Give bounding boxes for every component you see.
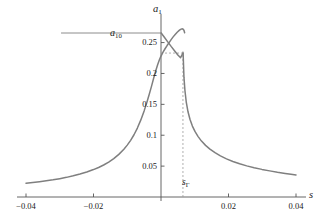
y-tick-label: 0.05 [129,162,157,171]
x-tick-label: −0.04 [13,202,39,211]
s-gamma-marker-label: sΓ [182,178,189,188]
a10-reference-label: a10 [110,28,122,40]
y-tick-label: 0.1 [129,131,157,140]
x-tick-label: −0.02 [81,202,107,211]
x-tick-label: 0.04 [283,202,309,211]
resonance-curve-chart [0,0,324,220]
y-tick-label: 0.2 [129,69,157,78]
y-tick-label: 0.25 [129,38,157,47]
x-axis-label: s [309,190,313,201]
x-tick-label: 0.02 [216,202,242,211]
y-axis-label: a1 [153,4,162,16]
y-tick-label: 0.15 [129,100,157,109]
